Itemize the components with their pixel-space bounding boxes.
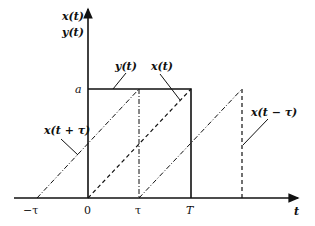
tick-tau: τ — [135, 204, 141, 217]
tick-T: T — [186, 204, 195, 217]
y-axis-label-y: y(t) — [61, 26, 84, 39]
label-y-pulse: y(t) — [114, 60, 137, 73]
label-x: x(t) — [150, 60, 173, 73]
tick-minus-tau: −τ — [23, 204, 38, 217]
level-label-a: a — [75, 83, 82, 96]
leader-x — [160, 74, 180, 100]
tick-zero: 0 — [84, 204, 91, 217]
signal-diagram: x(t) y(t) a y(t) x(t) x(t + τ) x(t − τ) … — [0, 0, 315, 226]
leader-y — [113, 73, 126, 89]
leader-x-advanced — [61, 139, 78, 155]
y-axis-label-x: x(t) — [61, 10, 84, 23]
t-axis-label: t — [294, 205, 299, 218]
label-x-advanced: x(t + τ) — [43, 124, 90, 137]
leader-x-delayed — [243, 119, 268, 145]
label-x-delayed: x(t − τ) — [250, 106, 297, 119]
